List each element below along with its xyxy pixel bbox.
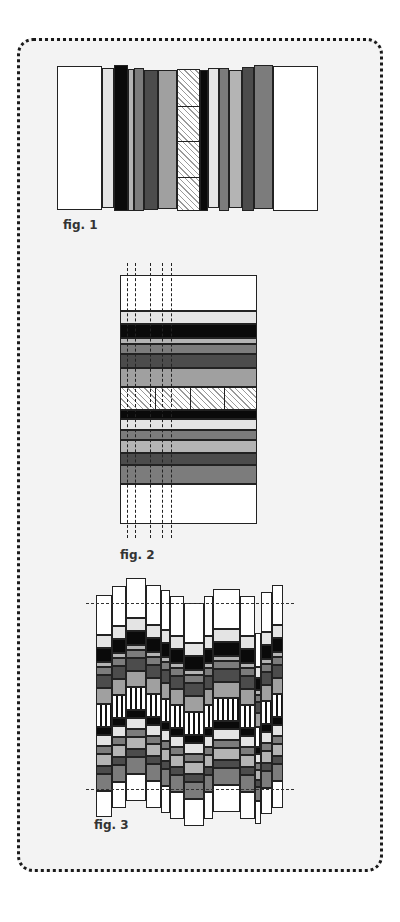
fig3-cell (146, 694, 161, 717)
fig1-strip (144, 70, 158, 210)
fig2-band (120, 410, 257, 419)
fig2-band (120, 453, 257, 465)
fig2-dashed-guide (127, 263, 128, 538)
fig3-cell (96, 635, 112, 648)
fig3-cell (126, 729, 146, 737)
fig3-cell (204, 649, 213, 663)
fig3-cell (170, 767, 184, 775)
fig3-cell (213, 729, 240, 740)
fig3-cell (261, 701, 272, 724)
fig3-cell (96, 735, 112, 746)
fig3-cell (204, 705, 213, 728)
fig3-cell (161, 683, 170, 699)
fig3-cell (126, 718, 146, 729)
fig3-cell (272, 781, 283, 808)
fig3-cell (240, 755, 255, 767)
fig3-cell (261, 645, 272, 659)
fig2-band (120, 324, 257, 338)
fig2-band (120, 368, 257, 387)
fig3-cell (112, 726, 126, 737)
fig2-dashed-guide (162, 263, 163, 538)
fig1-strip (102, 68, 114, 208)
fig3-cell (204, 596, 213, 636)
fig1-label: fig. 1 (63, 218, 98, 232)
fig3-cell (240, 649, 255, 663)
fig3-cell (240, 689, 255, 705)
fig3-cell (184, 643, 204, 656)
fig3-cell (96, 766, 112, 774)
fig3-cell (146, 736, 161, 744)
fig1-strip (242, 67, 254, 211)
fig3-cell (112, 626, 126, 639)
fig3-cell (126, 631, 146, 645)
fig3-cell (213, 589, 240, 629)
fig2-band (120, 354, 257, 368)
fig3-cell (240, 705, 255, 728)
fig3-cell (170, 705, 184, 728)
fig3-cell (261, 685, 272, 701)
fig3-cell (240, 668, 255, 676)
fig3-cell (213, 629, 240, 642)
fig3-cell (96, 675, 112, 688)
fig3-cell (184, 735, 204, 743)
fig3-cell (184, 762, 204, 774)
fig3-cell (161, 730, 170, 741)
fig3-cell (146, 657, 161, 665)
fig3-cell (213, 661, 240, 669)
fig3-cell (261, 632, 272, 645)
fig3-cell (161, 670, 170, 683)
fig3-cell (272, 764, 283, 781)
fig2-band (120, 440, 257, 453)
fig2-band (120, 430, 257, 440)
fig1-strip (273, 66, 318, 211)
fig3-cell (261, 751, 272, 763)
fig2-band (120, 419, 257, 430)
fig3-cell (261, 743, 272, 751)
fig3-cell (126, 757, 146, 774)
fig3-cell (184, 656, 204, 670)
fig2-band (120, 311, 257, 324)
fig3-cell (204, 728, 213, 736)
fig3-cell (112, 695, 126, 718)
fig3-cell (204, 767, 213, 775)
fig3-cell (213, 740, 240, 748)
fig3-cell (112, 679, 126, 695)
cell-divider (155, 388, 156, 409)
fig3-cell (184, 754, 204, 762)
fig3-cell (240, 736, 255, 747)
fig3-cell (272, 736, 283, 744)
fig3-cell (184, 743, 204, 754)
fig3-cell (146, 625, 161, 638)
fig3-cell (261, 664, 272, 672)
fig3-cell (126, 618, 146, 631)
fig3-cell (261, 724, 272, 732)
fig3-cell (213, 748, 240, 760)
fig3-cell (204, 736, 213, 747)
fig3-cell (96, 791, 112, 817)
fig3-cell (146, 585, 161, 625)
fig3-cell (213, 698, 240, 721)
fig3-cell (146, 725, 161, 736)
fig3-cell (261, 732, 272, 743)
fig3-cell (213, 760, 240, 768)
fig3-cell (96, 667, 112, 675)
fig1-strip (134, 68, 144, 211)
fig3-cell (272, 665, 283, 678)
fig3-cell (161, 630, 170, 643)
fig2-band (120, 484, 257, 524)
fig3-cell (261, 788, 272, 814)
fig3-cell (126, 710, 146, 718)
fig3-cell (96, 595, 112, 635)
fig3-cell (126, 658, 146, 671)
fig3-cell (261, 771, 272, 788)
fig3-cell (161, 722, 170, 730)
fig3-cell (96, 648, 112, 662)
fig3-cell (184, 799, 204, 826)
fig3-cell (161, 769, 170, 786)
fig3-cell (170, 676, 184, 689)
fig3-cell (112, 658, 126, 666)
fig1-strip (208, 68, 219, 208)
fig3-cell (272, 744, 283, 756)
fig3-cell (112, 737, 126, 745)
fig3-cell (170, 596, 184, 636)
